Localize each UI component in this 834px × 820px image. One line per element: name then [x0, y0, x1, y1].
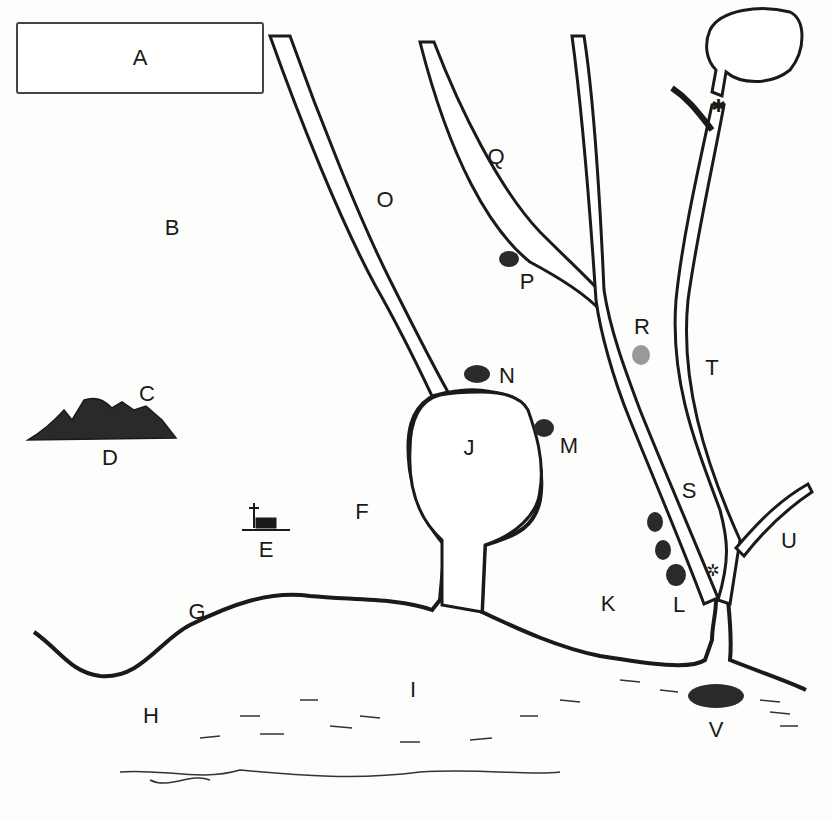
label-s: S	[682, 480, 697, 502]
island-v	[688, 684, 744, 708]
label-j: J	[464, 437, 475, 459]
rock-l2	[655, 540, 671, 560]
label-c: C	[139, 383, 155, 405]
label-q: Q	[487, 146, 504, 168]
label-h: H	[143, 705, 159, 727]
label-a: A	[133, 47, 148, 69]
label-k: K	[601, 593, 616, 615]
label-g: G	[188, 601, 205, 623]
marker-star-lower: ✲	[706, 561, 719, 580]
label-e: E	[259, 539, 274, 561]
label-r: R	[634, 316, 650, 338]
label-m: M	[560, 435, 578, 457]
label-v: V	[709, 719, 724, 741]
label-l: L	[673, 594, 685, 616]
dam-star-top: ✱	[711, 95, 726, 116]
rock-n	[464, 365, 490, 383]
label-p: P	[520, 271, 535, 293]
title-box: A	[16, 22, 264, 94]
rock-l1	[647, 512, 663, 532]
river-u	[736, 484, 812, 556]
label-i: I	[410, 679, 416, 701]
rock-r	[632, 345, 650, 365]
map-canvas: ✱ ✲ A B C	[0, 0, 834, 820]
river-t-branch	[672, 88, 712, 130]
label-o: O	[376, 189, 393, 211]
label-f: F	[355, 501, 368, 523]
rock-p	[499, 251, 519, 267]
label-u: U	[781, 530, 797, 552]
lake-j	[410, 392, 542, 612]
church-icon	[242, 503, 290, 530]
label-d: D	[102, 447, 118, 469]
label-n: N	[499, 365, 515, 387]
river-o	[270, 36, 448, 396]
label-t: T	[705, 357, 718, 379]
map-artwork: ✱ ✲	[0, 0, 834, 820]
rock-m	[534, 419, 554, 437]
lake-top-right	[707, 9, 802, 96]
rock-l3	[666, 564, 686, 586]
label-b: B	[165, 217, 180, 239]
